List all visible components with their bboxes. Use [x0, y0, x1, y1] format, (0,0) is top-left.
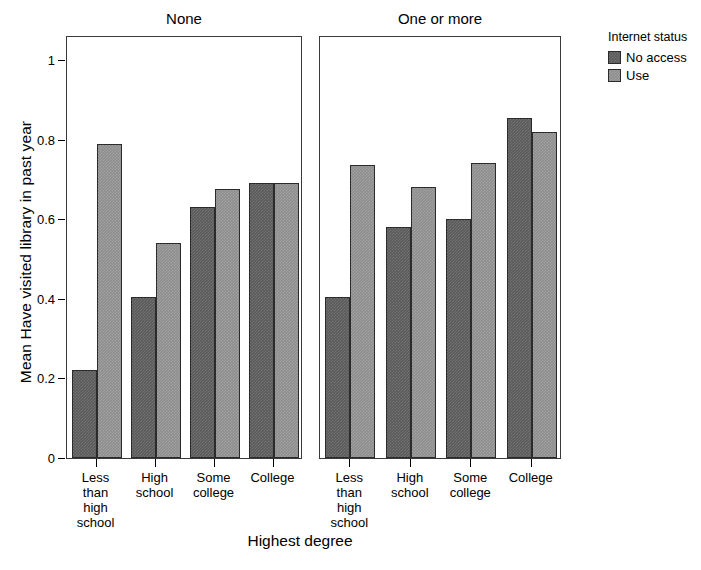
bar-none-no-access-3	[249, 183, 274, 458]
x-axis-tick-label-line: school	[64, 515, 128, 530]
x-axis-tick-mark	[410, 459, 411, 467]
plot-area-one-or-more	[320, 37, 560, 458]
x-axis-tick-label-line: college	[182, 485, 246, 500]
y-axis-tick-label: 1	[48, 53, 55, 68]
x-axis-tick-label: Somecollege	[182, 470, 246, 500]
legend-label-use: Use	[626, 68, 649, 83]
x-axis-tick-label-line: Some	[438, 470, 502, 485]
legend-swatch-use	[608, 69, 621, 82]
x-axis-tick-label-line: College	[241, 470, 305, 485]
bar-one-or-more-no-access-3	[507, 118, 532, 458]
legend-label-no-access: No access	[626, 50, 687, 65]
x-axis-tick-label-line: High	[123, 470, 187, 485]
x-axis-tick-label-line: high	[64, 500, 128, 515]
x-axis-title: Highest degree	[0, 532, 600, 550]
x-axis-tick-label-line: school	[317, 515, 381, 530]
bar-chart: Mean Have visited library in past year 1…	[0, 0, 701, 570]
bar-none-use-2	[215, 189, 240, 458]
y-axis-tick-label: 0.8	[37, 132, 55, 147]
bar-one-or-more-no-access-2	[446, 219, 471, 458]
bar-one-or-more-use-0	[350, 165, 375, 458]
bar-none-no-access-0	[72, 370, 97, 458]
facet-panel-one-or-more	[319, 36, 561, 459]
bar-one-or-more-use-1	[411, 187, 436, 458]
x-axis-tick-label-line: high	[317, 500, 381, 515]
x-axis-tick-label: Lessthanhighschool	[317, 470, 381, 530]
x-axis-tick-label: Highschool	[378, 470, 442, 500]
y-axis-tick-mark	[58, 378, 65, 379]
bar-none-no-access-1	[131, 297, 156, 458]
y-axis-tick-mark	[58, 458, 65, 459]
x-axis-tick-label-line: college	[438, 485, 502, 500]
y-axis-tick-mark	[58, 140, 65, 141]
x-axis-tick-mark	[214, 459, 215, 467]
y-axis-tick-mark	[58, 299, 65, 300]
x-axis-tick-label-line: Some	[182, 470, 246, 485]
x-axis-tick-label: Lessthanhighschool	[64, 470, 128, 530]
x-axis-tick-mark	[96, 459, 97, 467]
y-axis-tick-label: 0.4	[37, 291, 55, 306]
plot-area-none	[67, 37, 301, 458]
x-axis-tick-mark	[273, 459, 274, 467]
y-axis-tick-mark	[58, 219, 65, 220]
x-axis-tick-label-line: school	[378, 485, 442, 500]
bar-one-or-more-use-3	[532, 132, 557, 458]
bar-none-use-0	[97, 144, 122, 458]
legend-title: Internet status	[608, 30, 701, 44]
x-axis-tick-label: Somecollege	[438, 470, 502, 500]
legend: Internet status No access Use	[608, 30, 701, 84]
facet-panel-none	[66, 36, 302, 459]
facet-title-none: None	[66, 10, 302, 27]
x-axis-tick-mark	[349, 459, 350, 467]
x-axis-tick-label: College	[499, 470, 563, 485]
x-axis-tick-mark	[470, 459, 471, 467]
legend-swatch-no-access	[608, 51, 621, 64]
x-axis-tick-label-line: than	[64, 485, 128, 500]
y-axis-tick-label: 0.6	[37, 212, 55, 227]
y-axis-tick-mark	[58, 60, 65, 61]
x-axis-tick-label-line: than	[317, 485, 381, 500]
bar-one-or-more-no-access-1	[386, 227, 411, 458]
y-axis-tick-label: 0.2	[37, 371, 55, 386]
x-axis-tick-label-line: High	[378, 470, 442, 485]
facet-title-one-or-more: One or more	[319, 10, 561, 27]
legend-item-use[interactable]: Use	[608, 66, 701, 84]
bar-one-or-more-no-access-0	[325, 297, 350, 458]
y-axis-tick-labels: 10.80.60.40.20	[28, 0, 55, 570]
legend-item-no-access[interactable]: No access	[608, 48, 701, 66]
bar-none-use-3	[274, 183, 299, 458]
x-axis-tick-label-line: school	[123, 485, 187, 500]
bar-one-or-more-use-2	[471, 163, 496, 458]
bar-none-use-1	[156, 243, 181, 458]
x-axis-tick-label-line: Less	[317, 470, 381, 485]
x-axis-tick-mark	[155, 459, 156, 467]
y-axis-tick-label: 0	[48, 451, 55, 466]
x-axis-tick-label-line: Less	[64, 470, 128, 485]
x-axis-tick-label: College	[241, 470, 305, 485]
x-axis-tick-mark	[531, 459, 532, 467]
x-axis-tick-label: Highschool	[123, 470, 187, 500]
x-axis-tick-label-line: College	[499, 470, 563, 485]
bar-none-no-access-2	[190, 207, 215, 458]
